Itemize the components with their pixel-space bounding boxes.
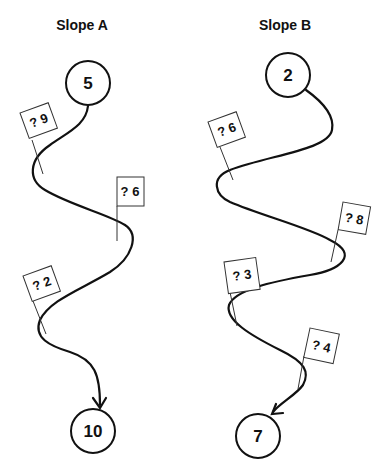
slope-a-title: Slope A (56, 17, 108, 33)
slope-b-end-value: 7 (253, 427, 262, 446)
slope-b: Slope B 2 7 ? 6 ? 8 (208, 17, 371, 458)
slope-a-flag-3: ? 2 (23, 266, 60, 334)
slope-b-title: Slope B (259, 17, 311, 33)
slope-a-flag-1: ? 9 (20, 103, 57, 174)
slope-b-end-node: 7 (236, 414, 280, 458)
slope-a-start-value: 5 (83, 74, 92, 93)
slope-b-flag-1: ? 6 (208, 112, 245, 180)
slope-a-flag-2-label: ? 6 (121, 184, 140, 199)
slope-a: Slope A 5 10 ? 9 ? 6 (20, 17, 144, 453)
slope-b-flag-3: ? 3 (224, 258, 260, 326)
slope-a-start-node: 5 (66, 61, 110, 105)
slope-a-path (33, 106, 133, 405)
slope-b-flag-2: ? 8 (331, 202, 371, 262)
slope-b-start-node: 2 (266, 53, 310, 97)
slope-b-start-value: 2 (283, 66, 292, 85)
slope-b-arrow-icon (272, 404, 283, 414)
slope-a-end-node: 10 (71, 409, 115, 453)
slope-a-end-value: 10 (84, 422, 103, 441)
slope-b-flag-3-label: ? 3 (232, 266, 253, 283)
ski-slopes-diagram: Slope A 5 10 ? 9 ? 6 (0, 0, 387, 466)
